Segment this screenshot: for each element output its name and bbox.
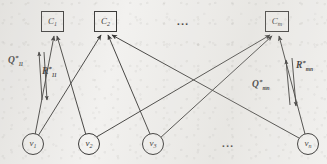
arrow-qmn-up bbox=[286, 60, 290, 105]
vertex-node-v1-label: v1 bbox=[30, 139, 37, 149]
cluster-node-c1[interactable]: C1 bbox=[41, 11, 64, 32]
cluster-node-cm[interactable]: Cm bbox=[265, 11, 289, 32]
edge-label-qmn: Q*mn bbox=[252, 79, 269, 91]
edge-vn-cm bbox=[279, 36, 305, 134]
figure-canvas: C1 C2 Cm ... v1 v2 v3 vn ... Q*11 bbox=[0, 0, 327, 164]
edge-v2-c1 bbox=[57, 36, 86, 135]
vertex-node-v3-label: v3 bbox=[150, 139, 157, 149]
edge-label-r11: R*11 bbox=[42, 66, 57, 78]
edge-label-rmn: R*mn bbox=[296, 60, 313, 72]
edge-label-q11: Q*11 bbox=[8, 55, 23, 67]
edge-v1-c2 bbox=[38, 35, 101, 136]
cluster-node-c2-label: C2 bbox=[101, 17, 110, 27]
cluster-node-c1-label: C1 bbox=[48, 17, 57, 27]
vertex-node-v3[interactable]: v3 bbox=[142, 133, 164, 155]
vertex-node-v2-label: v2 bbox=[86, 139, 93, 149]
vertex-node-vn[interactable]: vn bbox=[297, 133, 319, 155]
edge-v3-c2 bbox=[108, 35, 150, 134]
vertex-node-v1[interactable]: v1 bbox=[22, 133, 44, 155]
edge-vn-c2 bbox=[112, 35, 299, 138]
vertex-node-vn-label: vn bbox=[305, 139, 312, 149]
vertex-row-ellipsis: ... bbox=[222, 138, 234, 149]
cluster-node-cm-label: Cm bbox=[272, 17, 282, 27]
cluster-row-ellipsis: ... bbox=[177, 16, 189, 27]
vertex-node-v2[interactable]: v2 bbox=[78, 133, 100, 155]
edge-v1-c1 bbox=[35, 36, 54, 135]
cluster-node-c2[interactable]: C2 bbox=[94, 11, 117, 32]
edge-v2-cm bbox=[93, 35, 270, 139]
